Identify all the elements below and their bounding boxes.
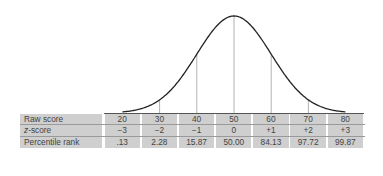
z-cell: −2 [142, 125, 177, 135]
z-suffix: -score [28, 125, 51, 135]
z-cell: −3 [105, 125, 140, 135]
raw-cell: 50 [216, 114, 251, 124]
pct-cell: 99.87 [328, 137, 363, 148]
row-z-score: z-score −3 −2 −1 0 +1 +2 +3 [20, 125, 365, 136]
label-raw-score: Raw score [20, 114, 102, 124]
row-raw-score: Raw score 20 30 40 50 60 70 80 [20, 114, 365, 125]
raw-cell: 80 [328, 114, 363, 124]
z-cell: +1 [253, 125, 288, 135]
raw-cell: 70 [290, 114, 325, 124]
label-percentile-rank: Percentile rank [20, 137, 102, 148]
z-cell: +3 [328, 125, 363, 135]
score-table: Raw score 20 30 40 50 60 70 80 z-score −… [20, 114, 365, 148]
pct-cell: 2.28 [142, 137, 177, 148]
pct-cell: 15.87 [179, 137, 214, 148]
pct-cell: 84.13 [253, 137, 288, 148]
z-cell: +2 [290, 125, 325, 135]
pct-cell: 97.72 [290, 137, 325, 148]
raw-cell: 40 [179, 114, 214, 124]
pct-cell: 50.00 [216, 137, 251, 148]
row-percentile-rank: Percentile rank .13 2.28 15.87 50.00 84.… [20, 137, 365, 148]
normal-curve [0, 0, 383, 114]
sd-markers [160, 16, 309, 113]
raw-cell: 30 [142, 114, 177, 124]
label-z-score: z-score [20, 125, 102, 135]
pct-cell: .13 [105, 137, 140, 148]
raw-cell: 20 [105, 114, 140, 124]
raw-cell: 60 [253, 114, 288, 124]
z-cell: 0 [216, 125, 251, 135]
z-cell: −1 [179, 125, 214, 135]
